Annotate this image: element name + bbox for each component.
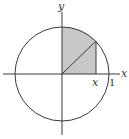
x-axis-label: x <box>121 67 128 80</box>
one-label: 1 <box>109 77 115 88</box>
shaded-region <box>62 27 96 74</box>
unit-circle-diagram: y x x 1 <box>0 0 129 139</box>
y-axis-label: y <box>57 0 65 13</box>
x-point-label: x <box>92 76 99 89</box>
